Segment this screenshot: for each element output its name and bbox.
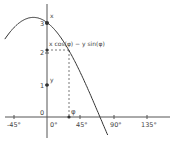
x-tick-90: 90°: [110, 121, 122, 129]
point-y: [45, 83, 49, 87]
y-tick-2: 2: [40, 49, 44, 57]
y-tick-1: 1: [40, 82, 44, 90]
label-phi: φ: [71, 108, 76, 116]
label-expression: x cos(φ) − y sin(φ): [49, 40, 105, 48]
point-result: [45, 48, 48, 51]
y-tick-0: 0: [40, 109, 44, 117]
x-tick-135: 135°: [141, 121, 157, 129]
chart-canvas: x y φ x cos(φ) − y sin(φ) 3 2 1 0 -45° 0…: [0, 0, 176, 144]
y-tick-3: 3: [40, 20, 44, 28]
x-tick-neg45: -45°: [7, 121, 21, 129]
point-x: [45, 21, 49, 25]
label-y: y: [50, 76, 54, 84]
x-tick-45: 45°: [76, 121, 88, 129]
x-tick-0: 0°: [50, 121, 57, 129]
label-x: x: [50, 12, 54, 19]
